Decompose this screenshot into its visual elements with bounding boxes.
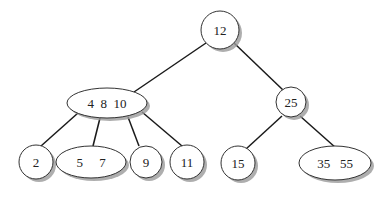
edge-25-to-15: [246, 116, 282, 149]
node-4-8-10-label: 4 8 10: [88, 96, 127, 111]
edge-25-to-35-55: [300, 116, 336, 148]
node-2: 2: [19, 145, 56, 182]
edge-12-to-4-8-10: [134, 43, 206, 92]
edge-4-8-10-to-9: [128, 117, 139, 146]
edge-4-8-10-to-5-7: [93, 118, 100, 146]
node-4-8-10: 4 8 10: [67, 88, 150, 121]
node-5-7: 5 7: [56, 146, 129, 181]
edge-4-8-10-to-11: [142, 112, 182, 146]
b-tree-diagram: 12 4 8 10 25 2 5 7 9 11 15: [0, 0, 392, 199]
node-25: 25: [276, 87, 309, 120]
node-5-7-label: 5 7: [76, 155, 106, 170]
node-9: 9: [130, 146, 165, 181]
node-9-label: 9: [143, 155, 150, 170]
node-2-label: 2: [33, 155, 40, 170]
edge-12-to-25: [234, 43, 283, 90]
node-11-label: 11: [181, 155, 194, 170]
node-25-label: 25: [285, 95, 298, 110]
node-35-55: 35 55: [299, 146, 374, 183]
edge-4-8-10-to-2: [41, 113, 78, 146]
node-12: 12: [201, 11, 242, 52]
node-35-55-label: 35 55: [317, 156, 353, 171]
node-11: 11: [170, 145, 207, 182]
node-15-label: 15: [232, 156, 245, 171]
node-15: 15: [221, 146, 258, 183]
node-12-label: 12: [214, 23, 227, 38]
